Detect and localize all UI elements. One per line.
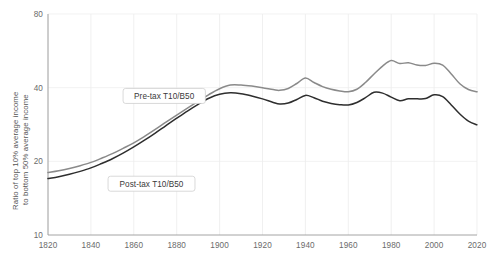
x-axis-tick-labels: 1820184018601880190019201940196019802000… — [39, 241, 487, 250]
x-tick-label: 1920 — [253, 241, 272, 250]
y-tick-label: 80 — [34, 10, 44, 19]
x-tick-label: 1840 — [82, 241, 101, 250]
annotation-pre-tax: Pre-tax T10/B50 — [123, 88, 205, 103]
x-tick-label: 1980 — [382, 241, 401, 250]
x-tick-label: 1940 — [296, 241, 315, 250]
x-tick-label: 2020 — [468, 241, 487, 250]
x-tick-label: 1820 — [39, 241, 58, 250]
y-axis-title-line-1: Ratio of top 10% average income — [11, 92, 20, 210]
x-tick-label: 2000 — [425, 241, 444, 250]
annotation-post-tax: Post-tax T10/B50 — [108, 176, 195, 191]
y-tick-label: 10 — [34, 231, 44, 240]
y-axis-title: Ratio of top 10% average income to botto… — [11, 92, 30, 210]
annotation-label: Post-tax T10/B50 — [120, 180, 184, 189]
x-tick-label: 1880 — [167, 241, 186, 250]
x-tick-label: 1860 — [124, 241, 143, 250]
annotation-label: Pre-tax T10/B50 — [134, 92, 195, 101]
series-annotations: Pre-tax T10/B50Post-tax T10/B50 — [108, 88, 205, 191]
vertical-gridlines — [48, 14, 477, 235]
y-tick-label: 20 — [34, 157, 44, 166]
y-axis-title-line-2: to bottom 50% average income — [21, 94, 30, 205]
x-tick-label: 1900 — [210, 241, 229, 250]
y-axis-tick-labels: 10204080 — [34, 10, 44, 240]
line-chart: 1820184018601880190019201940196019802000… — [0, 0, 489, 262]
chart-container: 1820184018601880190019201940196019802000… — [0, 0, 489, 262]
x-tick-label: 1960 — [339, 241, 358, 250]
y-tick-label: 40 — [34, 84, 44, 93]
